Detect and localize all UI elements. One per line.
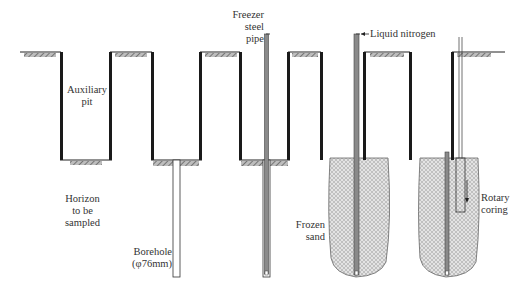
label-rotary-coring: Rotary coring (481, 192, 510, 216)
label-text: steel (222, 21, 264, 33)
pit-2-borehole (151, 52, 202, 277)
pit-5-rotary-coring (409, 37, 479, 277)
label-text: sand (285, 231, 325, 243)
soil-sampling-diagram: Auxiliary pit Horizon to be sampled Bore… (0, 0, 531, 292)
label-liquid-nitrogen: Liquid nitrogen (370, 28, 436, 40)
pit-3-freezer-pipe (239, 34, 290, 277)
liquid-nitrogen-pipe (354, 34, 359, 275)
label-text: sampled (60, 217, 105, 229)
borehole (173, 160, 180, 277)
label-horizon: Horizon to be sampled (60, 193, 105, 229)
label-text: pipe (222, 33, 264, 45)
label-text: Auxiliary (62, 84, 112, 96)
label-text: Borehole (126, 246, 172, 258)
label-text: to be (60, 205, 105, 217)
freezer-steel-pipe (265, 34, 269, 274)
label-text: Freezer (222, 9, 264, 21)
freezer-pipe-remaining (445, 152, 449, 275)
diagram-canvas (0, 0, 531, 292)
label-text: Horizon (60, 193, 105, 205)
label-text: Frozen (285, 219, 325, 231)
label-borehole: Borehole (φ76mm) (126, 246, 172, 270)
label-auxiliary-pit: Auxiliary pit (62, 84, 112, 108)
label-frozen-sand: Frozen sand (285, 219, 325, 243)
label-text: pit (62, 96, 112, 108)
label-text: (φ76mm) (126, 258, 172, 270)
label-text: coring (481, 204, 510, 216)
label-freezer-pipe: Freezer steel pipe (222, 9, 264, 45)
label-text: Rotary (481, 192, 510, 204)
ground-surface (20, 52, 505, 57)
pit-1-auxiliary (60, 52, 112, 165)
pit-4-frozen-sand (320, 32, 390, 277)
